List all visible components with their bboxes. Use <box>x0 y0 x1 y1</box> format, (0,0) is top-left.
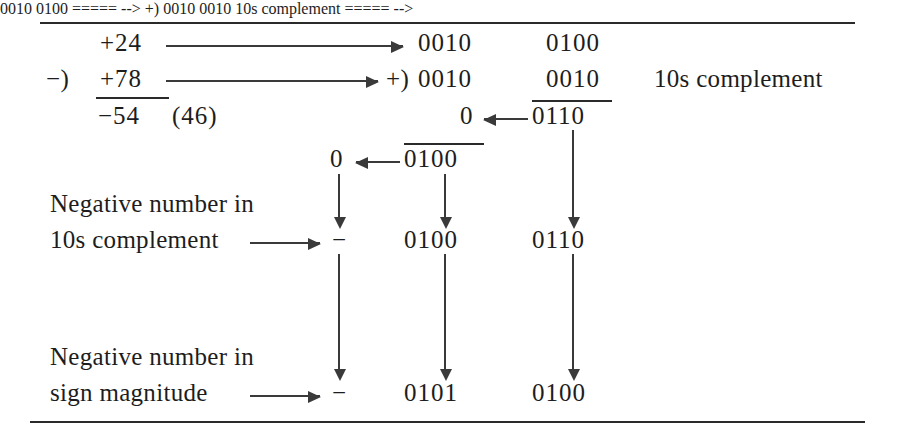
minuend-value: +24 <box>100 30 142 55</box>
binary-row3-sum: 0110 <box>532 103 585 128</box>
binary-row3-carry: 0 <box>460 103 474 128</box>
arrow-right-icon <box>166 80 378 82</box>
sign-magnitude-label-line1: Negative number in <box>50 344 254 369</box>
sign-magnitude-sign: − <box>332 380 346 405</box>
binary-row1-col2: 0100 <box>546 30 600 55</box>
decimal-result-alt: (46) <box>172 103 218 128</box>
arrow-down-icon <box>572 130 574 218</box>
arrow-right-icon <box>250 242 320 244</box>
tens-complement-note: 10s complement <box>654 66 823 91</box>
tens-complement-digit1: 0100 <box>404 227 458 252</box>
binary-row4-sum: 0100 <box>404 146 458 171</box>
binary-row2-col1: 0010 <box>418 66 472 91</box>
decimal-subtraction-figure: 0010 0100 ===== --> +24 0010 0100 +) 001… <box>0 0 899 445</box>
decimal-result: −54 <box>98 103 140 128</box>
tens-complement-sign: − <box>332 227 346 252</box>
arrow-left-icon <box>484 118 528 120</box>
binary-row2-col2: 0010 <box>546 66 600 91</box>
tens-complement-digit2: 0110 <box>532 227 585 252</box>
arrow-down-icon <box>338 254 340 370</box>
decimal-sum-bar <box>96 97 169 99</box>
subtract-operator: −) <box>46 66 69 91</box>
arrow-down-icon <box>444 254 446 370</box>
arrow-down-icon <box>338 174 340 218</box>
arrow-down-icon <box>444 174 446 218</box>
tens-complement-label-line1: Negative number in <box>50 191 254 216</box>
arrow-left-icon <box>356 161 400 163</box>
arrow-right-icon <box>250 395 320 397</box>
bottom-rule <box>30 421 865 423</box>
sign-magnitude-label-line2: sign magnitude <box>50 380 208 405</box>
sign-magnitude-digit1: 0101 <box>404 380 458 405</box>
sign-magnitude-digit2: 0100 <box>532 380 586 405</box>
top-rule <box>40 22 855 24</box>
binary-row4-carry: 0 <box>330 146 344 171</box>
binary-row1-col1: 0010 <box>418 30 472 55</box>
arrow-down-icon <box>572 254 574 370</box>
tens-complement-label-line2: 10s complement <box>50 227 219 252</box>
subtrahend-value: +78 <box>100 66 142 91</box>
arrow-right-icon <box>166 45 403 47</box>
add-operator: +) <box>386 66 409 91</box>
